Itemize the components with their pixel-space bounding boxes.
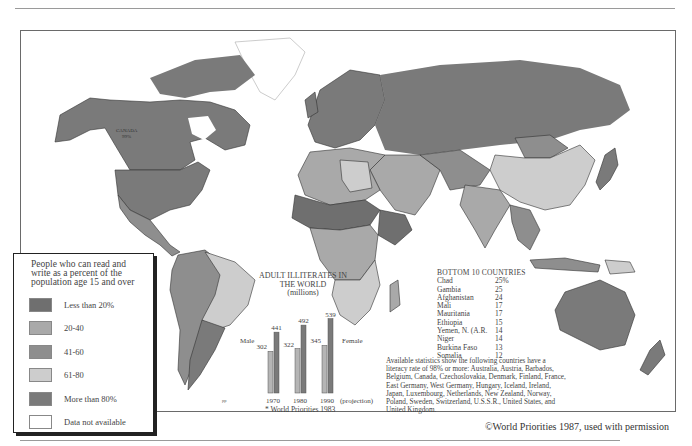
- series-label-female: Female: [342, 337, 363, 345]
- top-rule: [15, 8, 675, 9]
- chart-title-text: ADULT ILLITERATES IN THE WORLD: [258, 272, 348, 289]
- legend-swatch: [29, 392, 52, 406]
- x-tick-label: 1980: [293, 397, 308, 405]
- region-australia: [555, 280, 635, 350]
- legend-swatch: [29, 321, 52, 335]
- chart-title: ADULT ILLITERATES IN THE WORLD (millions…: [258, 272, 348, 298]
- series-label-male: Male: [240, 337, 254, 345]
- bar-male: [295, 349, 300, 393]
- legend-title: People who can read and write as a perce…: [31, 260, 147, 287]
- legend-label: More than 80%: [64, 394, 117, 404]
- legend-item: 20-40: [29, 317, 147, 341]
- region-canada-arctic: [150, 55, 255, 98]
- legend-swatch: [29, 298, 52, 312]
- region-madagascar: [390, 280, 400, 312]
- legend-item: Less than 20%: [29, 293, 147, 317]
- region-southeast-asia: [510, 205, 540, 250]
- legend-item: 41-60: [29, 340, 147, 364]
- region-middle-east: [370, 155, 440, 215]
- x-tick-label: 1990: [320, 397, 335, 405]
- chart-source: * World Priorities 1983: [265, 405, 335, 414]
- region-new-zealand: [640, 340, 665, 375]
- bar-male: [322, 345, 327, 393]
- bar-value-label: 492: [298, 317, 309, 325]
- region-new-guinea: [605, 260, 635, 274]
- bar-value-label: 441: [271, 324, 282, 332]
- bar-value-label: 322: [284, 341, 295, 349]
- legend-swatch: [29, 368, 52, 382]
- region-ussr: [375, 60, 630, 155]
- legend-label: 61-80: [64, 370, 84, 380]
- legend-item: More than 80%: [29, 387, 147, 411]
- legend-label: 41-60: [64, 347, 84, 357]
- legend-swatch: [29, 415, 52, 429]
- literacy-note: Available statistics show the following …: [386, 357, 566, 414]
- bar-female: [301, 325, 306, 393]
- legend: People who can read and write as a perce…: [13, 253, 154, 433]
- bar-value-label: 539: [325, 311, 336, 319]
- x-category-note: (projection): [340, 397, 374, 405]
- x-tick-label: 1970: [266, 397, 281, 405]
- legend-item: 61-80: [29, 364, 147, 388]
- bar-value-label: 345: [311, 337, 322, 345]
- bar-chart: 302441197032249219803455391990(projectio…: [240, 295, 375, 415]
- region-japan: [596, 148, 618, 190]
- bar-value-label: 302: [257, 343, 268, 351]
- region-north-america-north: [55, 98, 250, 170]
- legend-label: Data not available: [64, 417, 126, 427]
- credit-line: ©World Priorities 1987, used with permis…: [485, 421, 669, 432]
- legend-label: Less than 20%: [64, 300, 114, 310]
- bar-female: [328, 319, 333, 393]
- bottom-rule: [20, 440, 620, 441]
- bottom10-table: BOTTOM 10 COUNTRIES Chad25%Gambia25Afgha…: [437, 269, 526, 360]
- region-europe: [308, 70, 385, 148]
- region-horn-of-africa: [378, 210, 412, 245]
- region-india: [460, 185, 510, 248]
- bar-male: [268, 351, 273, 393]
- legend-swatch: [29, 345, 52, 359]
- canada-label: CANADA 99%: [116, 128, 137, 139]
- legend-item: Data not available: [29, 411, 147, 435]
- country-name: CANADA: [116, 128, 137, 134]
- legend-label: 20-40: [64, 323, 84, 333]
- region-indonesia: [530, 258, 600, 272]
- corner-mark: pp: [222, 398, 227, 403]
- bar-female: [274, 332, 279, 393]
- country-value: 99%: [116, 134, 137, 140]
